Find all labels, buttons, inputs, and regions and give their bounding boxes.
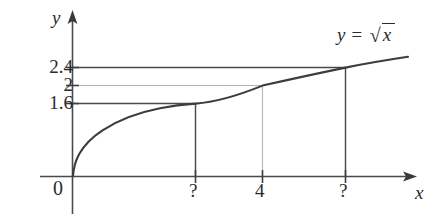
origin-label: 0 [53,178,63,198]
y-tick-label-1-6: 1.6 [49,93,73,112]
radical-sign: √ [370,25,381,45]
x-tick-label-upper-question: ? [339,181,347,200]
math-graph-figure: y x 0 2.4 2 1.6 ? 4 ? y = √x [0,0,434,224]
sqrt-curve [73,57,408,177]
radicand: x [382,23,395,44]
x-tick-label-lower-question: ? [189,181,197,200]
x-axis-label: x [415,183,423,202]
x-tick-label-4: 4 [255,181,265,200]
y-axis-label: y [52,8,60,27]
curve-equation-label: y = √x [337,23,395,44]
equation-radical: √x [368,23,395,44]
equation-lhs: y [337,24,345,45]
equation-relation: = [350,24,363,45]
